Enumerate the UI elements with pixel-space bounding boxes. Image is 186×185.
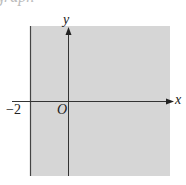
- origin-label: O: [57, 102, 67, 118]
- boundary-tick-label: −2: [6, 102, 21, 118]
- coordinate-plane: [0, 0, 186, 185]
- x-axis-label: x: [175, 92, 181, 108]
- y-axis-label: y: [63, 12, 69, 28]
